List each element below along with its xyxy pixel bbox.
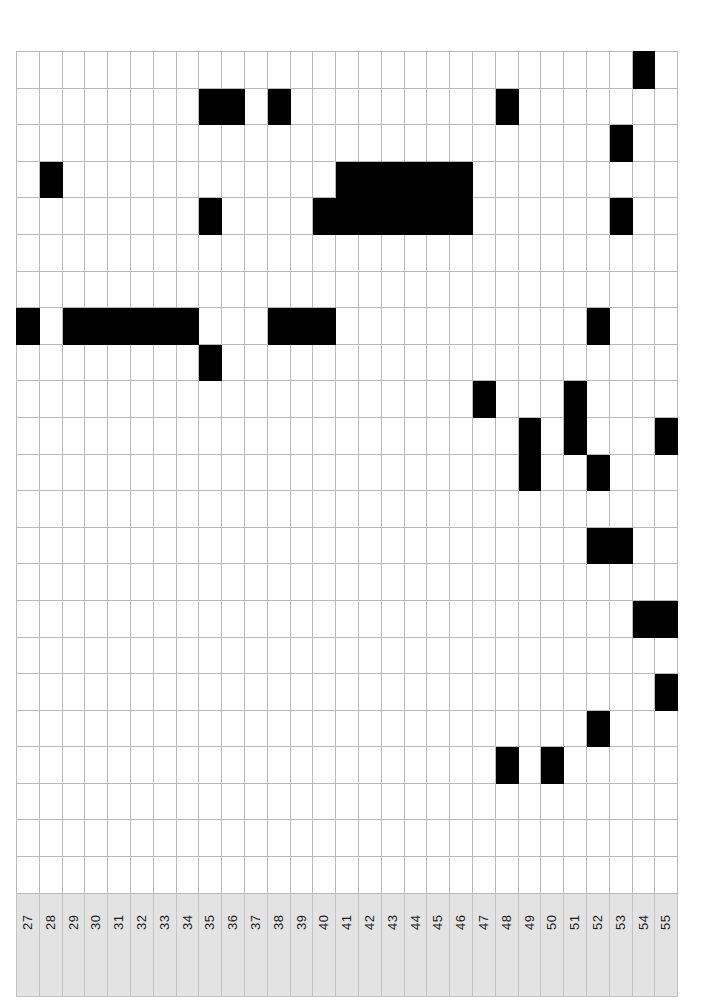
matrix-cell-empty[interactable] [336, 857, 359, 894]
matrix-cell-empty[interactable] [472, 564, 495, 601]
matrix-cell-empty[interactable] [381, 674, 404, 711]
matrix-cell-empty[interactable] [427, 637, 450, 674]
matrix-cell-empty[interactable] [450, 88, 473, 125]
matrix-cell-empty[interactable] [17, 783, 40, 820]
matrix-cell-empty[interactable] [495, 381, 518, 418]
matrix-cell-empty[interactable] [472, 125, 495, 162]
matrix-cell-empty[interactable] [541, 52, 564, 89]
matrix-cell-empty[interactable] [85, 783, 108, 820]
matrix-cell-empty[interactable] [62, 234, 85, 271]
matrix-cell-empty[interactable] [381, 234, 404, 271]
matrix-cell-empty[interactable] [244, 161, 267, 198]
matrix-cell-empty[interactable] [130, 783, 153, 820]
matrix-cell-empty[interactable] [404, 527, 427, 564]
matrix-cell-empty[interactable] [586, 857, 609, 894]
matrix-cell-filled[interactable] [153, 308, 176, 345]
matrix-cell-empty[interactable] [495, 527, 518, 564]
matrix-cell-empty[interactable] [244, 417, 267, 454]
matrix-cell-empty[interactable] [609, 381, 632, 418]
matrix-cell-empty[interactable] [404, 857, 427, 894]
matrix-cell-filled[interactable] [313, 198, 336, 235]
matrix-cell-empty[interactable] [290, 527, 313, 564]
matrix-cell-filled[interactable] [632, 52, 655, 89]
matrix-cell-empty[interactable] [108, 454, 131, 491]
matrix-cell-empty[interactable] [39, 857, 62, 894]
matrix-cell-empty[interactable] [199, 674, 222, 711]
matrix-cell-empty[interactable] [153, 857, 176, 894]
matrix-cell-empty[interactable] [85, 88, 108, 125]
matrix-cell-empty[interactable] [609, 820, 632, 857]
matrix-cell-empty[interactable] [244, 747, 267, 784]
matrix-cell-empty[interactable] [108, 381, 131, 418]
matrix-cell-empty[interactable] [153, 52, 176, 89]
matrix-cell-filled[interactable] [404, 161, 427, 198]
matrix-cell-empty[interactable] [62, 381, 85, 418]
matrix-cell-empty[interactable] [381, 710, 404, 747]
matrix-cell-empty[interactable] [17, 674, 40, 711]
matrix-cell-empty[interactable] [518, 125, 541, 162]
matrix-cell-empty[interactable] [518, 747, 541, 784]
matrix-cell-empty[interactable] [313, 637, 336, 674]
matrix-cell-empty[interactable] [176, 454, 199, 491]
matrix-cell-empty[interactable] [222, 820, 245, 857]
matrix-cell-empty[interactable] [632, 344, 655, 381]
column-header-32[interactable]: 32 [130, 893, 153, 996]
matrix-cell-empty[interactable] [199, 454, 222, 491]
matrix-cell-empty[interactable] [655, 161, 678, 198]
matrix-cell-empty[interactable] [153, 417, 176, 454]
column-header-42[interactable]: 42 [358, 893, 381, 996]
matrix-cell-empty[interactable] [541, 161, 564, 198]
matrix-cell-empty[interactable] [655, 491, 678, 528]
matrix-cell-empty[interactable] [130, 381, 153, 418]
matrix-cell-empty[interactable] [518, 527, 541, 564]
matrix-cell-empty[interactable] [17, 527, 40, 564]
matrix-cell-empty[interactable] [541, 600, 564, 637]
matrix-cell-empty[interactable] [404, 637, 427, 674]
matrix-cell-empty[interactable] [495, 637, 518, 674]
matrix-cell-empty[interactable] [39, 52, 62, 89]
matrix-cell-empty[interactable] [176, 637, 199, 674]
matrix-cell-empty[interactable] [153, 88, 176, 125]
matrix-cell-empty[interactable] [85, 637, 108, 674]
matrix-cell-empty[interactable] [130, 88, 153, 125]
matrix-cell-filled[interactable] [564, 381, 587, 418]
matrix-cell-empty[interactable] [541, 271, 564, 308]
matrix-cell-empty[interactable] [199, 271, 222, 308]
matrix-cell-empty[interactable] [632, 747, 655, 784]
matrix-cell-empty[interactable] [267, 491, 290, 528]
matrix-cell-empty[interactable] [290, 344, 313, 381]
matrix-cell-empty[interactable] [85, 820, 108, 857]
column-header-41[interactable]: 41 [336, 893, 359, 996]
matrix-cell-empty[interactable] [17, 344, 40, 381]
matrix-cell-empty[interactable] [632, 491, 655, 528]
matrix-cell-empty[interactable] [381, 857, 404, 894]
matrix-cell-empty[interactable] [176, 161, 199, 198]
matrix-cell-empty[interactable] [427, 747, 450, 784]
matrix-cell-empty[interactable] [450, 527, 473, 564]
matrix-cell-empty[interactable] [564, 600, 587, 637]
matrix-cell-empty[interactable] [244, 344, 267, 381]
matrix-cell-empty[interactable] [176, 820, 199, 857]
matrix-cell-empty[interactable] [267, 820, 290, 857]
matrix-cell-empty[interactable] [472, 344, 495, 381]
matrix-cell-empty[interactable] [518, 344, 541, 381]
matrix-cell-empty[interactable] [541, 857, 564, 894]
matrix-cell-filled[interactable] [222, 88, 245, 125]
matrix-cell-empty[interactable] [39, 564, 62, 601]
matrix-cell-empty[interactable] [130, 820, 153, 857]
matrix-cell-empty[interactable] [153, 381, 176, 418]
matrix-cell-empty[interactable] [450, 710, 473, 747]
matrix-cell-empty[interactable] [199, 600, 222, 637]
matrix-cell-empty[interactable] [39, 747, 62, 784]
matrix-cell-empty[interactable] [336, 417, 359, 454]
matrix-cell-empty[interactable] [609, 857, 632, 894]
matrix-cell-empty[interactable] [222, 637, 245, 674]
matrix-cell-empty[interactable] [85, 674, 108, 711]
matrix-cell-empty[interactable] [381, 491, 404, 528]
matrix-cell-empty[interactable] [222, 198, 245, 235]
matrix-cell-empty[interactable] [632, 381, 655, 418]
matrix-cell-empty[interactable] [655, 381, 678, 418]
matrix-cell-empty[interactable] [290, 381, 313, 418]
matrix-cell-empty[interactable] [267, 783, 290, 820]
matrix-cell-empty[interactable] [62, 710, 85, 747]
